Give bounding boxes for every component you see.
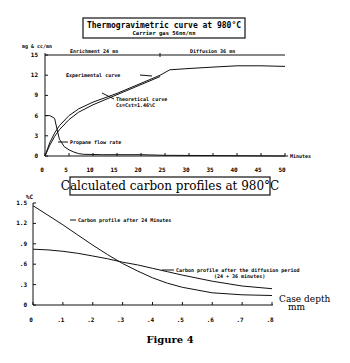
top-x-tick-label: 30 [182, 166, 190, 173]
bottom-y-axis-label: %C [26, 193, 34, 200]
experimental-leader [140, 75, 152, 76]
top-y-tick-label: 3 [34, 132, 38, 139]
bottom-x-tick-label: .1 [57, 316, 65, 323]
top-y-tick-label: 9 [34, 91, 38, 98]
bottom-x-tick-label: .2 [87, 316, 95, 323]
bottom-x-tick-label: .7 [237, 316, 245, 323]
top-x-tick-label: 15 [110, 166, 118, 173]
bottom-x-tick-label: .5 [177, 316, 185, 323]
propane-flow-curve [45, 116, 285, 156]
top-y-axis-label: mg & cc/mn [22, 43, 52, 50]
bottom-chart-title: Calculated carbon profiles at 980°C [61, 179, 280, 193]
top-x-tick-label: 25 [158, 166, 166, 173]
top-x-tick-label: 0 [40, 166, 44, 173]
top-chart-subtitle: Carrier gas 56nn/nn [133, 30, 196, 37]
bottom-x-tick-label: .4 [147, 316, 155, 323]
bottom-x-tick-label: .8 [266, 316, 274, 323]
top-x-tick-label: 10 [86, 166, 94, 173]
bottom-x-tick-label: .3 [117, 316, 125, 323]
top-x-tick-label: 5 [64, 166, 68, 173]
top-x-axis-label: Minutes [290, 153, 311, 159]
propane-label: Propane flow rate [70, 139, 121, 146]
bottom-y-tick-label: 1.2 [16, 219, 27, 226]
top-y-tick-label: 15 [31, 51, 39, 58]
bottom-y-tick-label: .6 [20, 260, 28, 267]
thermogravimetric-chart: Thermogravimetric curve at 980°C Carrier… [22, 18, 311, 173]
figure-caption: Figure 4 [146, 334, 193, 345]
diffusion-label: Diffusion 36 mn [190, 48, 235, 54]
top-x-tick-label: 50 [278, 166, 286, 173]
top-x-tick-label: 35 [206, 166, 214, 173]
bottom-y-tick-label: .9 [20, 240, 28, 247]
top-x-tick-label: 40 [230, 166, 238, 173]
top-x-tick-label: 20 [134, 166, 142, 173]
top-y-tick-label: 12 [31, 71, 39, 78]
top-chart-title: Thermogravimetric curve at 980°C [87, 20, 241, 30]
carbon-diffusion-label-2: (24 + 36 minutes) [214, 273, 265, 279]
top-y-tick-label: 0 [34, 152, 38, 159]
bottom-x-axis-label-2: mm [288, 302, 306, 312]
bottom-x-tick-label: .6 [207, 316, 215, 323]
enrichment-label: Enrichment 24 mn [70, 48, 118, 54]
top-y-tick-label: 6 [34, 112, 38, 119]
bottom-y-tick-label: 0 [23, 301, 27, 308]
bottom-x-tick-label: 0 [29, 316, 33, 323]
top-x-tick-label: 45 [254, 166, 262, 173]
carbon-profile-chart: Calculated carbon profiles at 980°C %C 0… [16, 177, 330, 323]
bottom-y-tick-label: 1.5 [16, 199, 27, 206]
experimental-curve-label: Experimental curve [66, 72, 120, 79]
figure-4: Thermogravimetric curve at 980°C Carrier… [0, 0, 350, 363]
carbon-24min-label: Carbon profile after 24 Minutes [78, 217, 171, 224]
bottom-y-tick-label: .3 [20, 281, 28, 288]
theoretical-curve-label-2: Cs=Cst=1.46%C [116, 102, 155, 108]
